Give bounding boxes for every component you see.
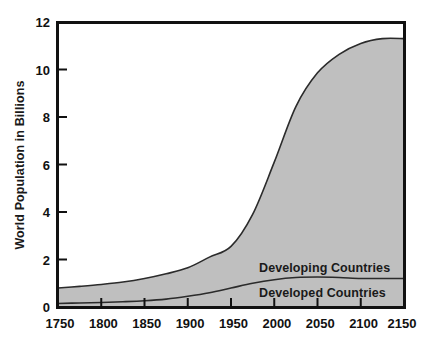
y-tick-label-8: 8	[28, 110, 50, 125]
x-tick-label-2050: 2050	[306, 316, 335, 331]
series-label-developing: Developing Countries	[259, 261, 390, 275]
x-tick-label-1900: 1900	[176, 316, 205, 331]
x-tick-label-1800: 1800	[89, 316, 118, 331]
x-tick-label-2100: 2100	[349, 316, 378, 331]
x-tick-label-1750: 1750	[46, 316, 75, 331]
x-tick-label-2000: 2000	[262, 316, 291, 331]
y-tick-label-0: 0	[28, 300, 50, 315]
y-tick-label-2: 2	[28, 252, 50, 267]
population-area-chart: World Population in Billions 0 2 4 6 8 1…	[0, 0, 438, 351]
series-label-developed: Developed Countries	[259, 286, 386, 300]
x-tick-label-1850: 1850	[132, 316, 161, 331]
y-tick-label-12: 12	[24, 15, 50, 30]
y-tick-label-6: 6	[28, 157, 50, 172]
x-tick-label-1950: 1950	[219, 316, 248, 331]
y-tick-label-10: 10	[24, 62, 50, 77]
x-tick-label-2150: 2150	[388, 316, 417, 331]
y-tick-label-4: 4	[28, 205, 50, 220]
